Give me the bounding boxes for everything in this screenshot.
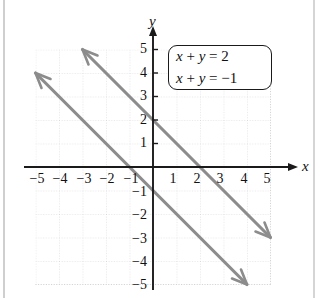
equation-1: x + y = 2 <box>176 46 271 68</box>
x-tick-label--5: −5 <box>26 172 48 186</box>
equation-1-lhs-a: x <box>176 48 183 64</box>
y-tick-label-1: 1 <box>131 136 147 150</box>
equation-1-rhs: 2 <box>221 48 229 64</box>
graph-figure: −5 −4 −3 −2 −1 1 2 3 4 5 1 2 3 4 5 −1 −2… <box>0 0 331 298</box>
x-tick-label-2: 2 <box>190 172 204 186</box>
x-axis-label: x <box>302 159 309 174</box>
y-tick-label--2: −2 <box>126 208 147 222</box>
y-axis-label: y <box>149 14 156 29</box>
equation-1-equals: = <box>209 48 217 64</box>
equations-legend-box: x + y = 2 x + y = −1 <box>168 45 272 90</box>
x-tick-label-1: 1 <box>166 172 180 186</box>
x-tick-label-4: 4 <box>237 172 251 186</box>
y-tick-label-4: 4 <box>131 66 147 80</box>
coordinate-plane <box>0 0 331 298</box>
equation-2-rhs: −1 <box>221 70 237 86</box>
y-tick-label--5: −5 <box>126 278 147 292</box>
equation-2-plus: + <box>186 70 194 86</box>
equation-2: x + y = −1 <box>176 68 271 90</box>
y-tick-label--4: −4 <box>126 255 147 269</box>
x-tick-label-3: 3 <box>213 172 227 186</box>
equation-2-equals: = <box>209 70 217 86</box>
x-tick-label--3: −3 <box>73 172 95 186</box>
y-tick-label--3: −3 <box>126 232 147 246</box>
equation-2-lhs-a: x <box>176 70 183 86</box>
equation-1-lhs-b: y <box>199 48 206 64</box>
y-tick-label-5: 5 <box>131 42 147 56</box>
equation-1-plus: + <box>186 48 194 64</box>
y-tick-label-3: 3 <box>131 89 147 103</box>
equation-2-lhs-b: y <box>199 70 206 86</box>
x-tick-label--2: −2 <box>96 172 118 186</box>
y-tick-label--1: −1 <box>126 185 147 199</box>
x-tick-label--4: −4 <box>49 172 71 186</box>
x-tick-label-5: 5 <box>260 172 274 186</box>
y-tick-label-2: 2 <box>131 113 147 127</box>
